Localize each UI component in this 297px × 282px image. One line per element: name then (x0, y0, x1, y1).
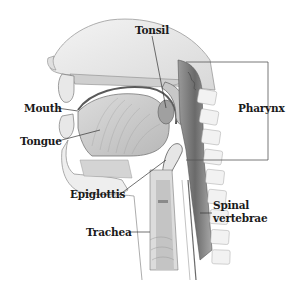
tonsil-shape (158, 100, 174, 124)
trachea-label: Trachea (86, 226, 132, 238)
tongue-shape (78, 94, 169, 156)
epiglottis-label: Epiglottis (70, 188, 125, 200)
upper-lip (58, 74, 74, 102)
mouth-label: Mouth (24, 102, 62, 114)
spinal-label-line2: vertebrae (213, 212, 267, 224)
pharynx-label: Pharynx (238, 102, 284, 114)
tongue-label: Tongue (20, 135, 62, 147)
spinal-label-line1: Spinal (213, 199, 249, 211)
tonsil-label: Tonsil (135, 24, 169, 36)
anatomy-diagram: Tonsil Mouth Tongue Pharynx Epiglottis T… (0, 0, 297, 282)
